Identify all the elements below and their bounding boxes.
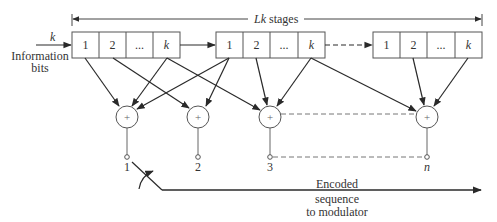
- stages-label-text: stages: [266, 12, 298, 26]
- output-tap-n: [425, 155, 430, 160]
- reg2-cell-ellipsis: ...: [270, 39, 298, 51]
- reg3-cell-k: k: [455, 39, 482, 51]
- input-k-label: k: [50, 31, 55, 43]
- adder-3-plus-icon: +: [260, 111, 280, 123]
- encoded-label-line1: Encoded: [290, 178, 384, 190]
- reg3-cell-2: 2: [400, 39, 427, 51]
- input-label-line2: bits: [8, 62, 72, 74]
- adder-2-plus-icon: +: [188, 111, 208, 123]
- reg1-cell-2: 2: [99, 39, 126, 51]
- reg3-cell-1: 1: [373, 39, 400, 51]
- output-tap-1: [125, 155, 130, 160]
- reg3-cell-ellipsis: ...: [427, 39, 455, 51]
- encoded-label-line3: to modulator: [290, 206, 384, 218]
- output-label-2: 2: [188, 161, 208, 173]
- tap-connections: [85, 58, 468, 111]
- output-label-n: n: [417, 161, 437, 173]
- encoded-label-line2: sequence: [290, 193, 384, 205]
- reg1-cell-1: 1: [72, 39, 99, 51]
- adder-1-plus-icon: +: [117, 111, 137, 123]
- output-tap-3: [268, 155, 273, 160]
- adder-n-plus-icon: +: [417, 111, 437, 123]
- output-label-1: 1: [117, 161, 137, 173]
- reg2-cell-1: 1: [216, 39, 243, 51]
- output-tap-2: [196, 155, 201, 160]
- reg2-cell-2: 2: [243, 39, 270, 51]
- reg1-cell-k: k: [153, 39, 180, 51]
- stages-label-L: L: [254, 12, 261, 26]
- reg2-cell-k: k: [298, 39, 325, 51]
- output-label-3: 3: [260, 161, 280, 173]
- reg1-cell-ellipsis: ...: [126, 39, 153, 51]
- stages-label: Lk stages: [252, 13, 300, 25]
